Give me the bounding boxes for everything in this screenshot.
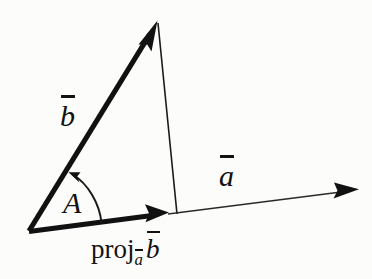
vector-projection-figure: b a A projab: [0, 0, 372, 279]
vector-b-shaft: [29, 34, 150, 231]
angle-arc-arrowhead: [69, 172, 81, 182]
projection-label: projab: [91, 232, 159, 263]
projection-operand: b: [146, 232, 160, 263]
vector-a-shaft: [168, 191, 349, 214]
overbar-icon: [135, 249, 143, 250]
b-overbar-glyph: b: [60, 96, 75, 131]
projection-word: proj: [91, 234, 135, 264]
vector-a-letter: a: [219, 156, 234, 191]
vector-b-letter: b: [60, 96, 75, 131]
figure-canvas: [0, 0, 372, 279]
a-overbar-glyph: a: [219, 156, 234, 191]
vector-a-arrowhead: [334, 183, 360, 199]
b-overbar-glyph-operand: b: [146, 232, 160, 263]
projection-vector-arrowhead: [145, 204, 169, 222]
overbar-icon: [220, 155, 234, 158]
vector-b-label: b: [60, 96, 75, 131]
a-overbar-glyph-sub: a: [135, 250, 143, 269]
drop-line: [158, 23, 177, 214]
overbar-icon: [61, 95, 75, 98]
projection-subscript-letter: a: [135, 250, 143, 269]
angle-label: A: [63, 188, 81, 218]
projection-subscript: a: [135, 250, 143, 269]
projection-vector-shaft: [29, 216, 152, 232]
projection-operand-letter: b: [146, 232, 160, 263]
vector-a-label: a: [219, 156, 234, 191]
